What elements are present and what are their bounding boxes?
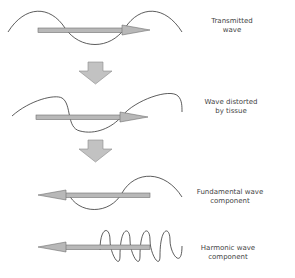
label-line: by tissue bbox=[188, 107, 274, 116]
fundamental-wave-stage bbox=[38, 176, 182, 209]
down-arrow-icon bbox=[79, 62, 112, 84]
left-arrow-icon bbox=[38, 242, 150, 252]
label-line: wave bbox=[200, 26, 264, 35]
left-arrow-icon bbox=[38, 190, 150, 200]
label-line: Transmitted bbox=[200, 17, 264, 26]
label-line: Fundamental wave bbox=[186, 188, 274, 197]
transmitted-wave-label: Transmitted wave bbox=[200, 17, 264, 35]
ultrasound-harmonic-diagram: Transmitted wave Wave distorted by tissu… bbox=[0, 0, 295, 278]
label-line: component bbox=[186, 197, 274, 206]
down-arrow-icon bbox=[79, 140, 112, 162]
distorted-wave-label: Wave distorted by tissue bbox=[188, 98, 274, 116]
right-arrow-icon bbox=[38, 25, 150, 35]
label-line: Wave distorted bbox=[188, 98, 274, 107]
transmitted-wave-stage bbox=[8, 11, 182, 44]
harmonic-wave-stage bbox=[38, 231, 182, 262]
distorted-wave-stage bbox=[12, 93, 182, 132]
fundamental-wave-label: Fundamental wave component bbox=[186, 188, 274, 206]
label-line: component bbox=[186, 253, 270, 262]
label-line: Harmonic wave bbox=[186, 244, 270, 253]
right-arrow-icon bbox=[36, 112, 148, 122]
harmonic-wave-label: Harmonic wave component bbox=[186, 244, 270, 262]
distorted-wave-curve bbox=[12, 93, 182, 132]
